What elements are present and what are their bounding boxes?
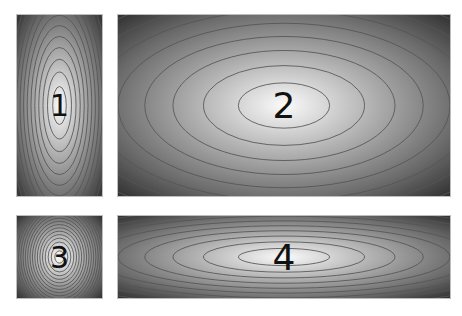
- contour-plot-3: [17, 216, 102, 298]
- panel-2: 2: [118, 15, 450, 196]
- contour-plot-2: [118, 15, 450, 196]
- contour-plot-4: [118, 216, 450, 298]
- contour-plot-1: [17, 15, 102, 196]
- panel-3: 3: [17, 216, 102, 298]
- panel-4: 4: [118, 216, 450, 298]
- panel-1: 1: [17, 15, 102, 196]
